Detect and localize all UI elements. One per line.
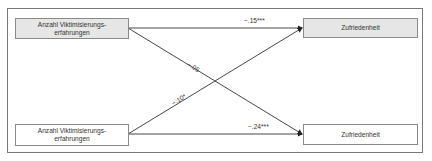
coef-pred2-out2: −.24*** xyxy=(248,123,269,130)
node-label-line2: erfahrungen xyxy=(38,135,106,143)
node-label-line2: erfahrungen xyxy=(38,29,106,37)
node-satisfaction-t2: Zufriedenheit xyxy=(303,124,418,145)
coef-pred1-out1: −.15*** xyxy=(244,17,265,24)
node-label: Zufriedenheit xyxy=(341,131,380,139)
node-satisfaction-t1: Zufriedenheit xyxy=(303,18,418,38)
node-label: Zufriedenheit xyxy=(341,24,380,32)
node-victimization-t1: Anzahl Viktimisierungs- erfahrungen xyxy=(15,18,129,39)
node-victimization-t2: Anzahl Viktimisierungs- erfahrungen xyxy=(15,124,129,146)
node-label-line1: Anzahl Viktimisierungs- xyxy=(38,21,106,29)
node-label-line1: Anzahl Viktimisierungs- xyxy=(38,127,106,135)
